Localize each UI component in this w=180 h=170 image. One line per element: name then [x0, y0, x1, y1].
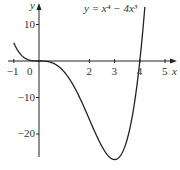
y-tick-label: −20: [18, 128, 35, 139]
x-tick-label: 3: [112, 66, 118, 77]
y-tick-label: −10: [18, 92, 35, 103]
x-tick-label: 2: [86, 66, 92, 77]
chart: −10234510−10−20 y x y = x⁴ − 4x³: [0, 0, 180, 170]
x-tick-label: 0: [27, 66, 33, 77]
x-axis-arrow-icon: [170, 59, 177, 64]
equation-label: y = x⁴ − 4x³: [84, 3, 137, 14]
x-tick-label: 4: [137, 66, 143, 77]
x-tick-label: −1: [7, 66, 19, 77]
y-tick-label: 10: [24, 19, 35, 30]
y-axis-arrow-icon: [37, 3, 42, 10]
x-axis-label: x: [172, 66, 177, 77]
x-tick-label: 5: [162, 66, 168, 77]
y-axis-label: y: [30, 0, 35, 11]
